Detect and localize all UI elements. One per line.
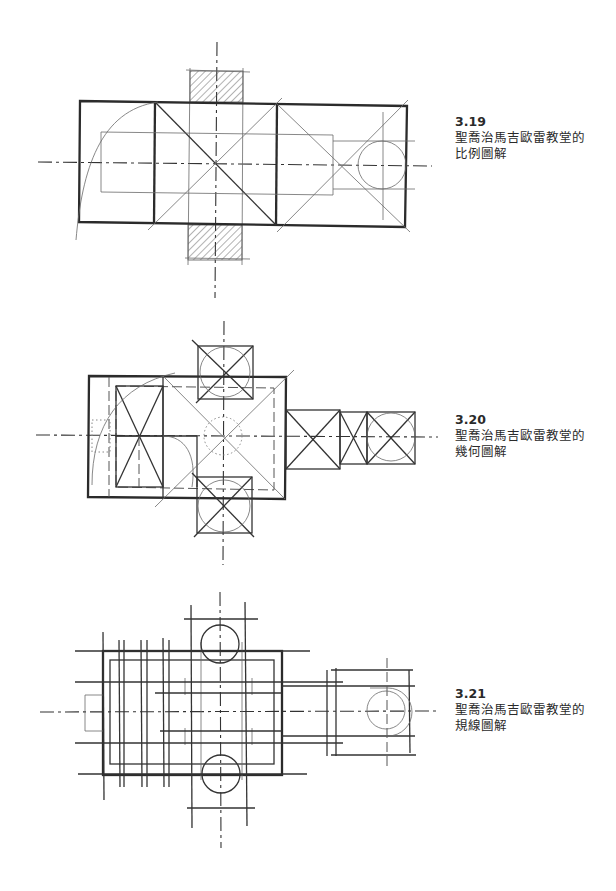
figure-title-line2: 比例圖解 (455, 146, 585, 162)
figure-title-line2: 幾何圖解 (455, 444, 585, 460)
figure-title-line2: 規線圖解 (455, 718, 585, 734)
figure-title-line1: 聖喬治馬吉歐雷教堂的 (455, 428, 585, 444)
caption-3-21: 3.21 聖喬治馬吉歐雷教堂的 規線圖解 (455, 686, 585, 734)
figure-3-19: 3.19 聖喬治馬吉歐雷教堂的 比例圖解 (0, 0, 616, 310)
figure-number: 3.19 (455, 114, 585, 130)
figure-title-line1: 聖喬治馬吉歐雷教堂的 (455, 130, 585, 146)
proportion-diagram (0, 0, 440, 310)
hatched-block-bottom (188, 225, 242, 260)
figure-number: 3.20 (455, 412, 585, 428)
figure-number: 3.21 (455, 686, 585, 702)
figure-3-21: 3.21 聖喬治馬吉歐雷教堂的 規線圖解 (0, 580, 616, 891)
hatched-block-top (190, 71, 243, 102)
geometry-diagram (0, 315, 450, 575)
caption-3-19: 3.19 聖喬治馬吉歐雷教堂的 比例圖解 (455, 114, 585, 162)
regulating-lines-diagram (0, 580, 450, 880)
figure-title-line1: 聖喬治馬吉歐雷教堂的 (455, 702, 585, 718)
caption-3-20: 3.20 聖喬治馬吉歐雷教堂的 幾何圖解 (455, 412, 585, 460)
figure-3-20: 3.20 聖喬治馬吉歐雷教堂的 幾何圖解 (0, 315, 616, 575)
